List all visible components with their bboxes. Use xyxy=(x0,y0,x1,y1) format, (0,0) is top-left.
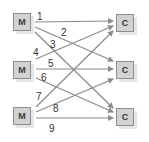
edge-label-4: 4 xyxy=(33,48,39,58)
edge-label-3: 3 xyxy=(50,40,56,50)
edge-label-1: 1 xyxy=(37,12,43,22)
edge-label-6: 6 xyxy=(41,73,47,83)
edge-label-8: 8 xyxy=(53,104,59,114)
source-node-m3: M xyxy=(13,107,31,125)
edge-label-5: 5 xyxy=(48,59,54,69)
source-node-m2: M xyxy=(13,61,31,79)
edge-label-2: 2 xyxy=(61,28,67,38)
source-node-m1: M xyxy=(13,13,31,31)
bipartite-diagram: MMMCCC 123456789 xyxy=(0,0,149,142)
target-node-c3: C xyxy=(116,108,134,126)
edge-arrow-1 xyxy=(35,21,113,22)
target-node-c2: C xyxy=(116,61,134,79)
target-node-c1: C xyxy=(116,14,134,32)
edge-label-9: 9 xyxy=(49,124,55,134)
edge-label-7: 7 xyxy=(36,92,42,102)
